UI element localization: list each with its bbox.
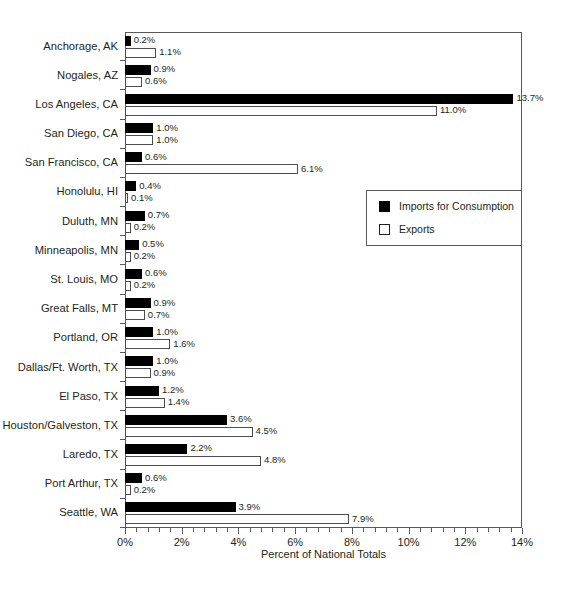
x-tick-minor [454,528,455,532]
bar-rows: 0.2%1.1%0.9%0.6%13.7%11.0%1.0%1.0%0.6%6.… [125,32,522,528]
bar-value-exports: 7.9% [352,514,374,524]
bar-value-exports: 11.0% [440,105,466,115]
bar-imports [125,94,513,104]
bar-value-exports: 0.7% [148,310,170,320]
bar-exports [125,223,131,233]
category-label: Honolulu, HI [0,185,118,198]
x-axis-title: Percent of National Totals [125,548,522,560]
bar-exports [125,398,165,408]
bar-exports [125,106,437,116]
bar-imports [125,298,151,308]
bar-exports [125,456,261,466]
x-tick-minor [397,528,398,532]
x-tick-minor [284,528,285,532]
x-tick-minor [488,528,489,532]
bar-imports [125,356,153,366]
bar-row: 3.9%7.9% [125,499,522,528]
bar-exports [125,427,253,437]
bar-value-exports: 1.6% [173,339,195,349]
x-tick-major [238,528,239,534]
bar-value-imports: 1.0% [156,123,178,133]
bar-value-imports: 1.0% [156,327,178,337]
x-tick-minor [386,528,387,532]
bar-imports [125,240,139,250]
bar-exports [125,252,131,262]
legend-label-imports: Imports for Consumption [399,200,514,212]
bar-value-exports: 4.8% [264,455,286,465]
x-tick-minor [431,528,432,532]
x-tick-major [295,528,296,534]
bar-value-exports: 0.6% [145,76,167,86]
bar-exports [125,281,131,291]
bar-value-exports: 0.1% [131,193,153,203]
legend-item-imports: Imports for Consumption [379,199,514,213]
category-label: Dallas/Ft. Worth, TX [0,361,118,374]
bar-value-imports: 0.2% [134,35,156,45]
bar-exports [125,368,151,378]
category-label: Duluth, MN [0,215,118,228]
category-label: Houston/Galveston, TX [0,419,118,432]
x-tick-minor [272,528,273,532]
bar-imports [125,211,145,221]
bar-row: 2.2%4.8% [125,440,522,469]
chart-legend: Imports for Consumption Exports [366,190,522,246]
bar-value-imports: 0.9% [154,64,176,74]
bar-row: 1.0%0.9% [125,353,522,382]
bar-imports [125,181,136,191]
bar-value-exports: 1.0% [156,135,178,145]
bar-row: 1.0%1.6% [125,324,522,353]
category-label: Anchorage, AK [0,40,118,53]
x-tick-minor [170,528,171,532]
bar-row: 13.7%11.0% [125,90,522,119]
x-tick-minor [318,528,319,532]
x-tick-minor [420,528,421,532]
x-tick-minor [511,528,512,532]
bar-value-exports: 6.1% [301,164,323,174]
category-label: Laredo, TX [0,448,118,461]
bar-value-exports: 0.2% [134,280,156,290]
category-label: St. Louis, MO [0,273,118,286]
bar-chart: Anchorage, AKNogales, AZLos Angeles, CAS… [0,0,567,590]
category-label: San Diego, CA [0,127,118,140]
bar-value-exports: 4.5% [256,426,278,436]
bar-imports [125,502,236,512]
bar-value-imports: 1.0% [156,356,178,366]
x-tick-minor [329,528,330,532]
bar-value-imports: 3.6% [230,414,252,424]
x-tick-minor [136,528,137,532]
category-label: Seattle, WA [0,506,118,519]
bar-row: 0.6%0.2% [125,470,522,499]
bar-imports [125,65,151,75]
x-tick-minor [443,528,444,532]
bar-imports [125,415,227,425]
x-tick-minor [159,528,160,532]
bar-exports [125,514,349,524]
bar-row: 0.2%1.1% [125,32,522,61]
x-tick-minor [499,528,500,532]
bar-imports [125,152,142,162]
legend-swatch-hollow-icon [379,224,390,235]
x-tick-minor [261,528,262,532]
x-tick-minor [193,528,194,532]
x-tick-major [182,528,183,534]
bar-value-exports: 0.9% [154,368,176,378]
bar-imports [125,36,131,46]
category-axis-labels: Anchorage, AKNogales, AZLos Angeles, CAS… [0,32,118,528]
bar-value-imports: 13.7% [516,93,543,103]
bar-exports [125,485,131,495]
bar-exports [125,48,156,58]
bar-value-imports: 1.2% [162,385,184,395]
x-tick-major [352,528,353,534]
bar-imports [125,269,142,279]
x-tick-minor [250,528,251,532]
x-tick-minor [341,528,342,532]
category-label: Great Falls, MT [0,302,118,315]
bar-value-imports: 0.6% [145,473,167,483]
bar-imports [125,123,153,133]
bar-value-imports: 0.4% [139,181,161,191]
bar-value-imports: 3.9% [239,502,261,512]
category-label: San Francisco, CA [0,156,118,169]
category-label: Nogales, AZ [0,69,118,82]
bar-imports [125,444,187,454]
bar-value-exports: 0.2% [134,222,156,232]
